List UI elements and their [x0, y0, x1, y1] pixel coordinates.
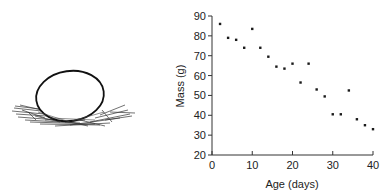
y-tick-label: 70: [194, 50, 206, 62]
data-point: [315, 88, 317, 90]
y-tick-label: 30: [194, 129, 206, 141]
x-tick-label: 10: [246, 159, 258, 171]
x-axis-label: Age (days): [265, 178, 318, 190]
y-tick-label: 90: [194, 10, 206, 22]
data-point: [251, 28, 253, 30]
data-point: [267, 56, 269, 58]
scatter-chart: 2030405060708090010203040 Age (days) Mas…: [0, 0, 382, 194]
data-point: [364, 124, 366, 126]
data-point: [340, 113, 342, 115]
y-tick-label: 80: [194, 30, 206, 42]
x-tick-label: 30: [327, 159, 339, 171]
data-point: [332, 113, 334, 115]
y-tick-label: 40: [194, 109, 206, 121]
data-point: [291, 62, 293, 64]
data-point: [243, 47, 245, 49]
data-point: [356, 118, 358, 120]
data-point: [235, 39, 237, 41]
data-points: [219, 23, 374, 131]
x-tick-label: 0: [209, 159, 215, 171]
data-point: [299, 81, 301, 83]
data-point: [227, 37, 229, 39]
data-point: [324, 95, 326, 97]
data-point: [372, 128, 374, 130]
data-point: [259, 47, 261, 49]
y-tick-label: 60: [194, 70, 206, 82]
x-tick-label: 20: [286, 159, 298, 171]
chart-axes: 2030405060708090010203040: [194, 10, 379, 171]
data-point: [275, 65, 277, 67]
data-point: [219, 23, 221, 25]
y-tick-label: 20: [194, 149, 206, 161]
y-tick-label: 50: [194, 89, 206, 101]
data-point: [283, 67, 285, 69]
data-point: [348, 89, 350, 91]
data-point: [307, 62, 309, 64]
x-tick-label: 40: [367, 159, 379, 171]
y-axis-label: Mass (g): [174, 65, 186, 108]
